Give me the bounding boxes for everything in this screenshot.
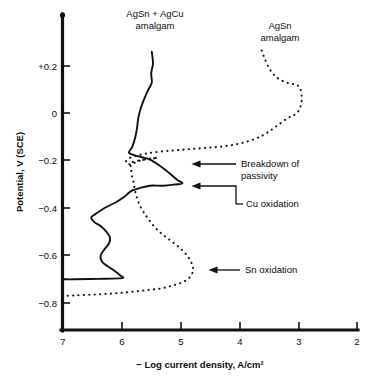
y-tick-label-3: −0.4 [38,203,57,214]
cu-oxidation-leader-line [196,186,236,204]
y-tick-labels: +0.2 0 −0.2 −0.4 −0.6 −0.8 [38,61,57,309]
annotation-sn-oxidation: Sn oxidation [209,264,298,275]
y-tick-label-0: +0.2 [38,61,57,72]
x-tick-label-4: 3 [296,336,301,347]
annotation-breakdown-of-passivity: Breakdown of passivity [192,158,300,181]
y-axis-cap [60,12,65,17]
cu-oxidation-label: Cu oxidation [246,198,299,209]
x-tick-label-5: 2 [354,336,359,347]
y-axis-title: Potential, V (SCE) [14,132,25,212]
series-label-agsn-agcu-line2: amalgam [135,20,174,31]
y-tick-label-1: 0 [52,108,57,119]
chart-figure: +0.2 0 −0.2 −0.4 −0.6 −0.8 7 6 5 4 3 2 P… [0,0,376,383]
series-label-agsn-line2: amalgam [260,32,299,43]
x-tick-label-2: 5 [178,336,183,347]
sn-oxidation-label: Sn oxidation [245,264,297,275]
series-label-agsn-agcu-amalgam: AgSn + AgCu amalgam [126,8,183,31]
series-label-agsn-agcu-line1: AgSn + AgCu [126,8,183,19]
x-tick-label-1: 6 [119,336,124,347]
x-tick-label-3: 4 [237,336,242,347]
breakdown-label-line2: passivity [241,170,278,181]
series-curve-agsn-agcu-amalgam [63,52,182,280]
series-label-agsn-line1: AgSn [268,20,291,31]
breakdown-arrow-head-icon [192,160,201,167]
annotation-cu-oxidation: Cu oxidation [192,182,299,209]
x-axis-title: − Log current density, A/cm² [136,359,263,370]
x-tick-labels: 7 6 5 4 3 2 [60,336,359,347]
x-tick-label-0: 7 [60,336,65,347]
series-label-agsn-amalgam: AgSn amalgam [260,20,299,43]
breakdown-label-line1: Breakdown of [241,158,299,169]
cu-oxidation-arrow-head-icon [192,182,201,189]
sn-oxidation-arrow-head-icon [209,266,218,273]
polarization-curve-chart: +0.2 0 −0.2 −0.4 −0.6 −0.8 7 6 5 4 3 2 P… [0,0,376,383]
y-tick-label-4: −0.6 [38,250,57,261]
axis-group [60,12,358,331]
y-tick-label-2: −0.2 [38,155,57,166]
y-tick-label-5: −0.8 [38,298,57,309]
